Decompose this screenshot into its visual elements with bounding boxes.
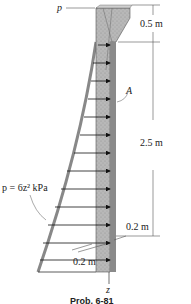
pressure-equation: p = 6z² kPa	[2, 183, 48, 193]
dimension-lines	[116, 5, 160, 236]
z-axis-label: z	[106, 285, 110, 295]
figure-caption: Prob. 6-81	[70, 296, 114, 304]
pressure-curve	[38, 42, 96, 272]
thickness-right-dimension: 0.2 m	[126, 222, 149, 232]
p-label: p	[57, 3, 62, 13]
point-a-label: A	[126, 86, 132, 96]
wall-side-face	[110, 42, 116, 272]
top-height-dimension: 0.5 m	[140, 19, 163, 29]
main-height-dimension: 2.5 m	[140, 138, 163, 148]
thickness-bottom-dimension: 0.2 m	[73, 257, 96, 267]
